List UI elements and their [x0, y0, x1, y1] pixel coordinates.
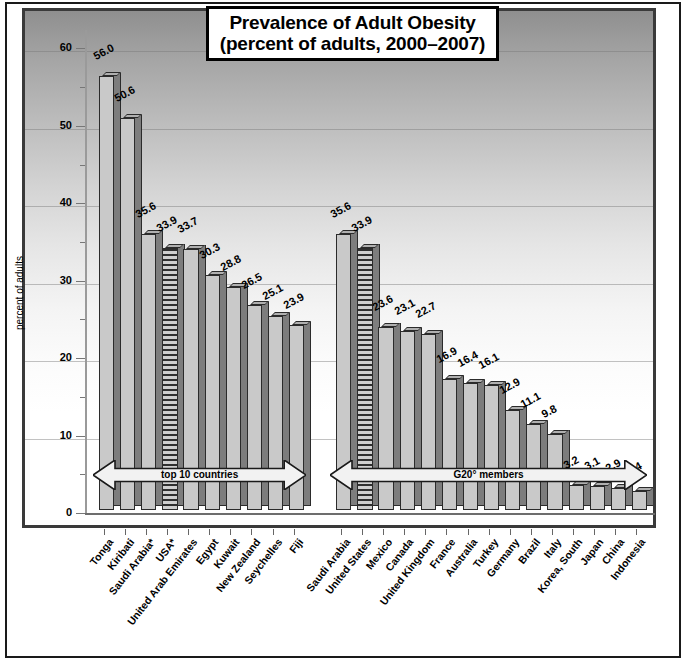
y-tick-label: 40 [42, 196, 72, 208]
y-tick-major [76, 126, 85, 127]
x-tick [188, 529, 189, 535]
bar-value-label: 30.3 [197, 241, 222, 262]
bar-front-face [632, 491, 647, 510]
page-title: Prevalence of Adult Obesity [213, 12, 492, 33]
x-tick [209, 529, 210, 535]
chart-subtitle: (percent of adults, 2000–2007) [213, 33, 492, 54]
y-tick-label: 50 [42, 119, 72, 131]
bar-value-label: 33.9 [350, 213, 375, 234]
y-tick-minor [80, 87, 85, 88]
bar-value-label: 23.9 [281, 290, 306, 311]
bar-front-face [484, 385, 499, 510]
bar-value-label: 12.9 [498, 375, 523, 396]
bar-front-face [611, 488, 626, 510]
chart-title-box: Prevalence of Adult Obesity (percent of … [206, 6, 499, 61]
bar: 16.1 [484, 385, 499, 510]
y-tick-major [76, 436, 85, 437]
bar-front-face [442, 379, 457, 510]
x-tick [573, 529, 574, 535]
bar-value-label: 16.1 [476, 351, 501, 372]
bar-value-label: 28.8 [218, 252, 243, 273]
y-tick-label: 0 [42, 506, 72, 518]
bar-value-label: 33.7 [176, 214, 201, 235]
y-tick-major [76, 358, 85, 359]
y-tick-minor [80, 242, 85, 243]
y-axis-line [85, 30, 87, 513]
y-tick-label: 20 [42, 351, 72, 363]
bar-value-label: 35.6 [329, 200, 354, 221]
x-tick [251, 529, 252, 535]
bar: 2.4 [632, 491, 647, 510]
y-tick-major [76, 203, 85, 204]
y-tick-major [76, 281, 85, 282]
x-tick [362, 529, 363, 535]
x-tick [167, 529, 168, 535]
y-tick-major [76, 513, 85, 514]
annotation-g20: G20° members [330, 460, 647, 490]
x-tick [615, 529, 616, 535]
bar-front-face [463, 383, 478, 510]
y-tick-minor [80, 319, 85, 320]
bar: 16.4 [463, 383, 478, 510]
y-tick-major [76, 48, 85, 49]
y-tick-label: 30 [42, 274, 72, 286]
y-tick-minor [80, 165, 85, 166]
x-tick [489, 529, 490, 535]
bar-front-face [120, 118, 135, 510]
x-tick [146, 529, 147, 535]
y-tick-label: 60 [42, 41, 72, 53]
x-tick [341, 529, 342, 535]
x-tick [404, 529, 405, 535]
x-tick [125, 529, 126, 535]
bar-value-label: 9.8 [540, 402, 559, 420]
x-tick [594, 529, 595, 535]
bar: 56.0 [99, 76, 114, 510]
x-tick [468, 529, 469, 535]
x-tick [636, 529, 637, 535]
y-axis-title: percent of adults [14, 256, 25, 330]
y-tick-label: 10 [42, 429, 72, 441]
bar-value-label: 56.0 [91, 42, 116, 63]
bar-value-label: 22.7 [413, 300, 438, 321]
plot-panel: 56.050.635.633.933.730.328.826.525.123.9… [22, 8, 656, 528]
x-axis-line [85, 513, 655, 515]
x-tick [531, 529, 532, 535]
y-tick-minor [80, 474, 85, 475]
arrow-label: G20° members [330, 469, 647, 480]
bar-value-label: 26.5 [239, 270, 264, 291]
bar-front-face [99, 76, 114, 510]
x-tick [104, 529, 105, 535]
x-tick [383, 529, 384, 535]
x-tick [230, 529, 231, 535]
annotation-top10: top 10 countries [93, 460, 306, 490]
x-tick [273, 529, 274, 535]
bar-value-label: 16.4 [455, 348, 480, 369]
x-tick [294, 529, 295, 535]
chart-screenshot: 56.050.635.633.933.730.328.826.525.123.9… [0, 0, 689, 665]
arrow-label: top 10 countries [93, 469, 306, 480]
x-tick [510, 529, 511, 535]
bar: 50.6 [120, 118, 135, 510]
x-tick [446, 529, 447, 535]
y-tick-minor [80, 397, 85, 398]
bar-value-label: 11.1 [519, 390, 543, 410]
bar: 2.9 [611, 488, 626, 510]
bar: 16.9 [442, 379, 457, 510]
x-tick [552, 529, 553, 535]
x-tick [425, 529, 426, 535]
bar-value-label: 23.1 [392, 297, 417, 318]
